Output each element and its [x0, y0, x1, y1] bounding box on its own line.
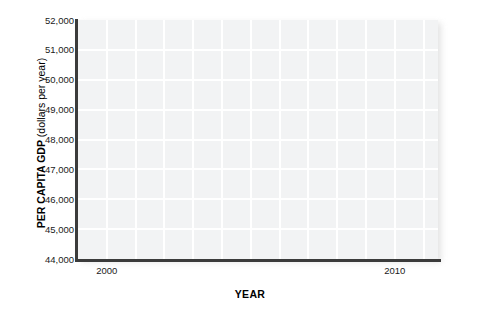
horizontal-gridline	[78, 139, 438, 141]
vertical-gridline	[135, 20, 137, 259]
y-axis-tick-label: 52,000	[28, 15, 74, 26]
vertical-gridline	[163, 20, 165, 259]
horizontal-gridline	[78, 109, 438, 111]
x-axis-title: YEAR	[0, 288, 478, 300]
y-axis-tick-label: 46,000	[28, 194, 74, 205]
y-axis-tick-label: 48,000	[28, 134, 74, 145]
horizontal-gridline	[78, 49, 438, 51]
vertical-gridline	[279, 20, 281, 259]
x-axis-tick-label: 2000	[77, 265, 137, 277]
horizontal-gridline	[78, 79, 438, 81]
horizontal-gridline	[78, 198, 438, 200]
x-axis-tick-labels: 20002010	[0, 265, 478, 279]
x-axis-tick-label: 2010	[365, 265, 425, 277]
horizontal-gridline	[78, 228, 438, 230]
y-axis-tick-label: 45,000	[28, 224, 74, 235]
y-axis-tick-label: 47,000	[28, 164, 74, 175]
y-axis-tick-label: 50,000	[28, 74, 74, 85]
vertical-gridline	[365, 20, 367, 259]
chart-figure: PER CAPITA GDP (dollars per year) 44,000…	[0, 0, 478, 314]
vertical-gridline	[192, 20, 194, 259]
vertical-gridline	[423, 20, 425, 259]
vertical-gridline	[307, 20, 309, 259]
y-axis-tick-label: 49,000	[28, 104, 74, 115]
vertical-gridline	[221, 20, 223, 259]
plot-area	[78, 20, 438, 259]
vertical-gridline	[106, 20, 108, 259]
vertical-gridline	[250, 20, 252, 259]
y-axis-tick-label: 51,000	[28, 44, 74, 55]
vertical-gridline	[394, 20, 396, 259]
y-axis-line	[75, 19, 78, 262]
plot-area-wrapper	[78, 20, 438, 259]
vertical-gridline	[336, 20, 338, 259]
y-axis-tick-label: 44,000	[28, 254, 74, 265]
horizontal-gridline	[78, 168, 438, 170]
x-axis-line	[75, 259, 441, 262]
